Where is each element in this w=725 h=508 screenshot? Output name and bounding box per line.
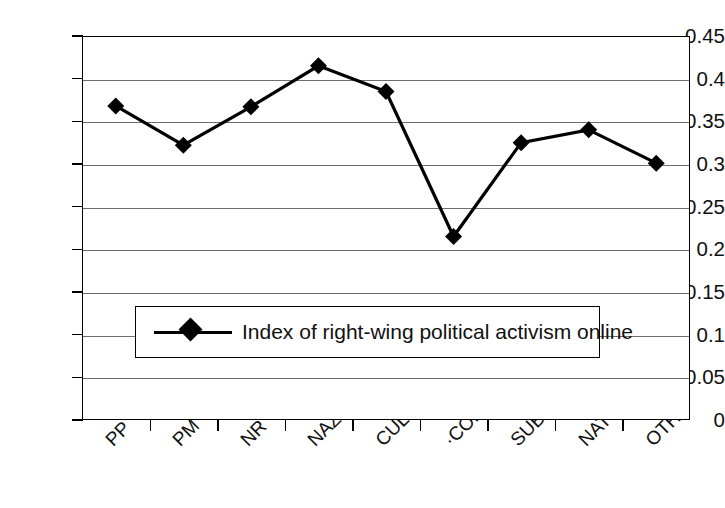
legend-entry-label: Index of right-wing political activism o…	[242, 320, 633, 344]
x-axis-tick-mark	[217, 420, 219, 431]
plot-area	[82, 36, 690, 420]
gridline	[83, 250, 689, 251]
x-axis-tick-mark	[352, 420, 354, 431]
x-axis-tick-mark	[420, 420, 422, 431]
x-axis-tick-mark	[150, 420, 152, 431]
chart-screenshot: 00.050.10.150.20.250.30.350.40.45 PPPMNR…	[0, 0, 725, 508]
legend: Index of right-wing political activism o…	[135, 306, 600, 358]
gridline	[83, 122, 689, 123]
x-axis-tick-label: PM	[169, 416, 203, 450]
gridline	[83, 165, 689, 166]
gridline	[83, 293, 689, 294]
x-axis-tick-label: NR	[237, 417, 270, 450]
gridline	[83, 378, 689, 379]
x-axis-tick-mark	[487, 420, 489, 431]
x-axis-tick-mark	[622, 420, 624, 431]
x-axis-tick-mark	[555, 420, 557, 431]
x-axis-tick-mark	[285, 420, 287, 431]
x-axis-tick-label: PP	[102, 418, 133, 449]
gridline	[83, 208, 689, 209]
gridline	[83, 80, 689, 81]
legend-marker-icon	[154, 322, 232, 342]
